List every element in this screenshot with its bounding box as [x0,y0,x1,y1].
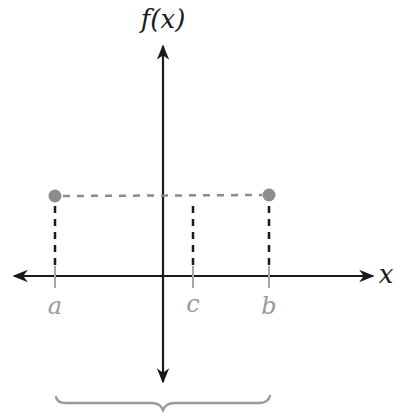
endpoint-b-dot [263,189,276,202]
point-label-a: a [48,292,62,320]
interval-brace [56,396,270,410]
y-axis-label: f(x) [139,4,186,34]
point-label-b: b [261,292,276,320]
x-axis-label: x [379,259,394,289]
endpoint-a-dot [49,190,62,203]
point-label-c: c [186,290,199,318]
secant-dashed-line [63,195,262,196]
function-diagram: f(x) x a c b [0,0,397,415]
